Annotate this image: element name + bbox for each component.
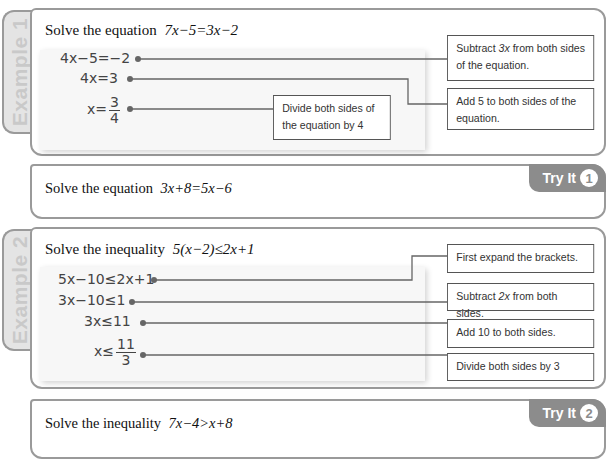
question-text: Solve the equation [45,180,153,196]
try-it-1-question: Solve the equation 3x+8=5x−6 [45,180,232,197]
example-1-title: Solve the equation 7x−5=3x−2 [45,22,238,39]
note-math: 2x [499,290,510,302]
example-2-title-text: Solve the inequality [45,241,165,257]
fraction: 113 [116,337,136,367]
example-1-note-2: Add 5 to both sides of the equation. [447,88,594,130]
example-1-tab-label: Example 1 [8,18,32,126]
note-math: 3x [499,42,510,54]
connector-dot [127,106,133,112]
question-equation: 3x+8=5x−6 [161,180,232,196]
note-text: First expand the brackets. [456,251,578,263]
example-1-equation: 7x−5=3x−2 [164,22,238,38]
note-text: Divide both sides by 3 [456,360,560,372]
example-1: Example 1 Solve the equation 7x−5=3x−2 4… [0,0,610,160]
example-2-inequality: 5(x−2)≤2x+1 [173,241,255,257]
note-text: Subtract [456,42,498,54]
example-2-note-1: First expand the brackets. [447,244,594,273]
example-2-note-3: Add 10 to both sides. [447,319,594,348]
example-1-note-3: Divide both sides of the equation by 4 [273,95,391,140]
question-inequality: 7x−4>x+8 [169,415,233,431]
connector-dot [140,352,146,358]
connector-dot [151,277,157,283]
denominator: 4 [110,111,119,126]
note-text: Subtract [456,290,498,302]
note-text: Divide both sides of the equation by 4 [282,102,374,131]
example-2-step-3: 3x≤11 [84,313,131,329]
connector-dot [129,299,135,305]
try-it-label: Try It [543,405,576,421]
example-2-step-2: 3x−10≤1 [58,292,125,308]
try-it-number: 1 [580,169,598,187]
connector-dot [140,320,146,326]
note-text: Add 10 to both sides. [456,326,555,338]
try-it-1-badge: Try It 1 [529,164,606,192]
example-2-tab-label: Example 2 [8,236,32,344]
fraction: 34 [109,95,120,125]
example-2-title: Solve the inequality 5(x−2)≤2x+1 [45,241,255,258]
example-2-step-1: 5x−10≤2x+1 [58,271,154,287]
example-1-step-1: 4x−5=−2 [60,50,130,66]
example-1-note-1: Subtract 3x from both sides of the equat… [447,35,594,81]
step-prefix: x≤ [94,343,114,359]
example-1-step-3: x=34 [87,95,120,125]
numerator: 3 [109,95,120,111]
connector-dot [127,76,133,82]
note-text: Add 5 to both sides of the equation. [456,95,576,124]
try-it-2: Solve the inequality 7x−4>x+8 Try It 2 [30,399,606,459]
question-text: Solve the inequality [45,415,161,431]
example-2-step-4: x≤113 [94,337,136,367]
example-1-step-2: 4x=3 [80,70,118,86]
example-1-title-text: Solve the equation [45,22,157,38]
denominator: 3 [121,353,130,368]
try-it-label: Try It [543,170,576,186]
connector-dot [135,56,141,62]
try-it-2-badge: Try It 2 [529,399,606,427]
try-it-2-question: Solve the inequality 7x−4>x+8 [45,415,233,432]
numerator: 11 [116,337,136,353]
example-2-note-4: Divide both sides by 3 [447,353,594,381]
step-prefix: x= [87,101,107,117]
example-2: Example 2 Solve the inequality 5(x−2)≤2x… [0,225,610,395]
example-2-note-2: Subtract 2x from both sides. [447,283,594,311]
try-it-1: Solve the equation 3x+8=5x−6 Try It 1 [30,164,606,219]
try-it-number: 2 [580,404,598,422]
